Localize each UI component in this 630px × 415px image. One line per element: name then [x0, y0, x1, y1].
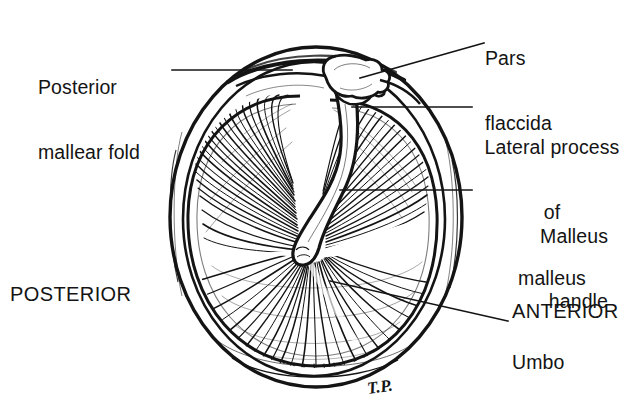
- label-anterior-line1: ANTERIOR: [512, 300, 619, 322]
- label-posterior-mallear-fold-line1: Posterior: [38, 77, 140, 99]
- pars-flaccida-shape: [323, 55, 389, 98]
- label-lateral-process-line1: Lateral process: [476, 137, 628, 159]
- artist-signature: T.P.: [366, 376, 394, 398]
- leader-line-pars-flaccida: [360, 43, 484, 78]
- label-pars-flaccida-line1: Pars: [485, 48, 552, 70]
- label-posterior-mallear-fold: Posterior mallear fold: [38, 33, 140, 186]
- label-posterior-mallear-fold-line2: mallear fold: [38, 142, 140, 164]
- label-malleus-handle-line1: Malleus: [476, 226, 608, 248]
- label-umbo-line1: Umbo: [512, 352, 564, 374]
- label-orientation-anterior: ANTERIOR: [512, 255, 619, 345]
- fiber-hatching-posterior-superior: [196, 95, 299, 253]
- label-orientation-posterior: POSTERIOR: [10, 238, 131, 328]
- label-posterior-line1: POSTERIOR: [10, 283, 131, 305]
